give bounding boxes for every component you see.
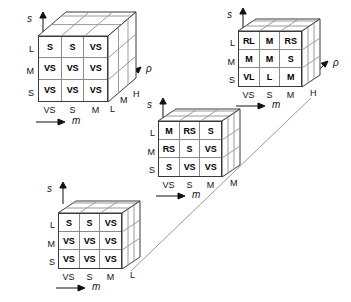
cube-cell: VS xyxy=(100,250,121,268)
cube-cell: VS xyxy=(180,158,201,176)
cube-cell: VS xyxy=(100,232,121,250)
cube-cell: VS xyxy=(80,232,101,250)
cube-cell: S xyxy=(280,50,301,68)
cube-cell: RL xyxy=(239,32,260,50)
cube-cell: VS xyxy=(80,250,101,268)
cube-cell: VS xyxy=(84,58,107,79)
cube-front-face-top-left: S S VS VS VS VS VS VS VS xyxy=(38,36,108,102)
cube-bottom-left: s S S VS VS VS VS VS VS VS L M xyxy=(36,184,176,302)
cube-cell: M xyxy=(159,122,180,140)
cube-cell: M xyxy=(260,50,281,68)
cube-cell: S xyxy=(180,140,201,158)
cube-cell: L xyxy=(260,68,281,86)
cube-cell: S xyxy=(159,158,180,176)
cube-front-face-top-right: RL M RS M M S VL L M xyxy=(238,31,302,87)
diagram-canvas: s S S VS VS VS VS VS VS VS xyxy=(0,0,351,302)
cube-cell: RS xyxy=(280,32,301,50)
cube-cell: S xyxy=(62,37,85,58)
cube-cell: RS xyxy=(180,122,201,140)
cube-cell: VS xyxy=(84,80,107,101)
cube-cell: VS xyxy=(100,214,121,232)
cube-cell: S xyxy=(80,214,101,232)
cube-cell: VS xyxy=(39,58,62,79)
cube-cell: VS xyxy=(62,58,85,79)
cube-cell: VS xyxy=(59,250,80,268)
cube-cell: VS xyxy=(62,80,85,101)
cube-cell: M xyxy=(239,50,260,68)
cube-cell: S xyxy=(200,122,221,140)
cube-cell: RS xyxy=(159,140,180,158)
cube-front-face-middle: M RS S RS S VS S VS VS xyxy=(158,121,222,177)
cube-cell: S xyxy=(59,214,80,232)
cube-cell: VL xyxy=(239,68,260,86)
cube-cell: VS xyxy=(39,80,62,101)
cube-cell: S xyxy=(39,37,62,58)
cube-cell: VS xyxy=(200,158,221,176)
cube-cell: VS xyxy=(200,140,221,158)
cube-cell: M xyxy=(260,32,281,50)
cube-front-face-bottom-left: S S VS VS VS VS VS VS VS xyxy=(58,213,122,269)
cube-cell: M xyxy=(280,68,301,86)
cube-cell: VS xyxy=(59,232,80,250)
cube-cell: VS xyxy=(84,37,107,58)
